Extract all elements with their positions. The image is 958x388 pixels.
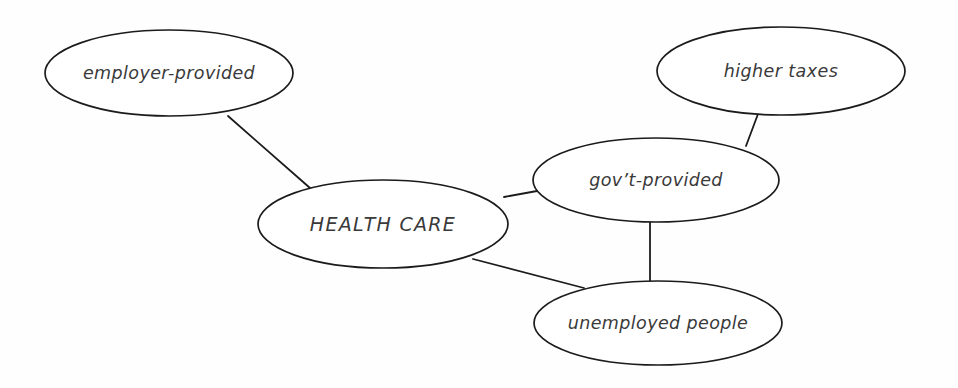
nodes-layer [45,27,905,365]
edge-connector [228,116,310,188]
concept-map-svg [0,0,958,388]
node-ellipse-employer-provided[interactable] [45,30,293,116]
node-ellipse-unemployed-people[interactable] [534,281,782,365]
node-ellipse-higher-taxes[interactable] [657,27,905,115]
node-ellipse-govt-provided[interactable] [533,138,779,222]
edge-connector [746,114,758,146]
concept-map-canvas: employer-providedhigher taxesgov’t-provi… [0,0,958,388]
edge-connector [504,191,537,197]
node-ellipse-health-care[interactable] [258,180,508,268]
edge-connector [473,259,584,288]
